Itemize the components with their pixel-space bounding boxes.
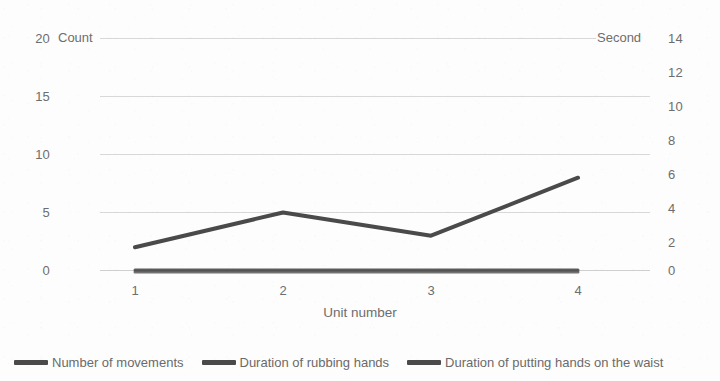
legend-label: Duration of rubbing hands bbox=[240, 356, 390, 369]
legend-swatch-icon bbox=[14, 360, 48, 365]
chart-plot-area bbox=[0, 0, 720, 381]
left-axis-tick: 15 bbox=[0, 89, 50, 104]
chart-figure: Count Second 20 15 10 5 0 14 12 10 8 6 4… bbox=[0, 0, 720, 381]
left-axis-tick: 5 bbox=[0, 205, 50, 220]
legend-label: Number of movements bbox=[52, 356, 184, 369]
left-axis-tick: 20 bbox=[0, 31, 50, 46]
x-axis-tick: 1 bbox=[115, 283, 155, 298]
x-axis-tick: 2 bbox=[263, 283, 303, 298]
right-axis-tick: 0 bbox=[668, 263, 675, 278]
left-axis-unit-label: Count bbox=[58, 30, 93, 45]
left-axis-tick: 0 bbox=[0, 263, 50, 278]
x-axis-title: Unit number bbox=[0, 305, 720, 320]
right-axis-unit-label: Second bbox=[597, 30, 641, 45]
right-axis-tick: 14 bbox=[668, 31, 683, 46]
legend-swatch-icon bbox=[407, 360, 441, 365]
right-axis-tick: 10 bbox=[668, 99, 683, 114]
left-axis-tick: 10 bbox=[0, 147, 50, 162]
right-axis-tick: 8 bbox=[668, 133, 675, 148]
legend-swatch-icon bbox=[202, 360, 236, 365]
right-axis-tick: 6 bbox=[668, 167, 675, 182]
right-axis-tick: 12 bbox=[668, 65, 683, 80]
right-axis-tick: 2 bbox=[668, 235, 675, 250]
right-axis-tick: 4 bbox=[668, 201, 675, 216]
chart-legend: Number of movements Duration of rubbing … bbox=[0, 356, 720, 369]
legend-label: Duration of putting hands on the waist bbox=[445, 356, 663, 369]
legend-item-duration-hands-on-waist: Duration of putting hands on the waist bbox=[407, 356, 663, 369]
x-axis-tick: 4 bbox=[558, 283, 598, 298]
x-axis-tick: 3 bbox=[411, 283, 451, 298]
legend-item-duration-rubbing-hands: Duration of rubbing hands bbox=[202, 356, 390, 369]
legend-item-number-of-movements: Number of movements bbox=[14, 356, 184, 369]
